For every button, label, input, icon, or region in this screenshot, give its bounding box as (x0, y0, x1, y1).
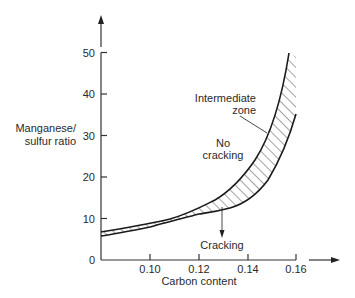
y-tick-10: 10 (83, 213, 95, 225)
y-tick-0: 0 (89, 254, 95, 266)
intermediate-label-line2: zone (232, 104, 256, 116)
cracking-arrow (220, 207, 225, 238)
x-tick-labels: 0.10 0.12 0.14 0.16 (139, 263, 306, 275)
y-tick-30: 30 (83, 130, 95, 142)
y-tick-labels: 50 40 30 20 10 0 (83, 47, 95, 267)
y-tick-50: 50 (83, 47, 95, 59)
chart: 50 40 30 20 10 0 0.10 0.12 0.14 0.16 Man… (0, 0, 355, 298)
x-axis-label: Carbon content (161, 275, 236, 287)
upper-boundary-curve (101, 53, 289, 232)
y-axis-label-line2: sulfur ratio (25, 135, 76, 147)
x-axis (101, 254, 296, 260)
y-tick-40: 40 (83, 88, 95, 100)
y-axis (101, 53, 107, 261)
y-axis-label-line1: Manganese/ (15, 122, 76, 134)
x-tick-0.12: 0.12 (188, 263, 209, 275)
no-cracking-label-line2: cracking (203, 149, 244, 161)
x-tick-0.10: 0.10 (139, 263, 160, 275)
intermediate-label-line1: Intermediate (195, 92, 256, 104)
x-tick-0.14: 0.14 (237, 263, 258, 275)
y-tick-20: 20 (83, 171, 95, 183)
y-axis-arrow (98, 15, 104, 47)
no-cracking-label-line1: No (216, 137, 230, 149)
intermediate-leader-line (240, 116, 267, 133)
x-axis-arrow (309, 257, 340, 263)
x-tick-0.16: 0.16 (285, 263, 306, 275)
cracking-label: Cracking (200, 239, 243, 251)
